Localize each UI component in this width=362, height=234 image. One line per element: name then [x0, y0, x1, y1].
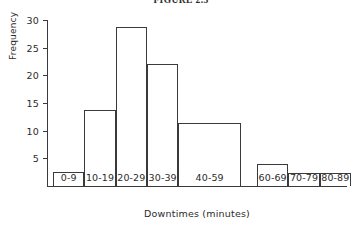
bar-30-39 [147, 64, 178, 186]
x-tick-label-10-19: 10-19 [86, 172, 114, 183]
figure-caption: FIGURE 2.3 [0, 0, 362, 5]
x-tick-label-20-29: 20-29 [117, 172, 145, 183]
x-tick-label-80-89: 80-89 [321, 172, 349, 183]
x-tick-label-70-79: 70-79 [290, 172, 318, 183]
plot-area: 51015202530 [47, 20, 347, 186]
y-tick-label-15: 15 [27, 98, 40, 109]
y-tick-label-5: 5 [33, 153, 39, 164]
y-tick-25: 25 [43, 48, 48, 49]
y-tick-label-20: 20 [27, 70, 40, 81]
figure-container: FIGURE 2.3 Frequency 51015202530 0-910-1… [0, 0, 362, 234]
figure-caption-clip: FIGURE 2.3 [0, 0, 362, 9]
y-tick-label-30: 30 [27, 15, 40, 26]
x-tick-label-60-69: 60-69 [259, 172, 287, 183]
bar-20-29 [116, 27, 147, 186]
x-tick-label-30-39: 30-39 [149, 172, 177, 183]
x-tick-label-40-59: 40-59 [196, 172, 224, 183]
y-tick-5: 5 [43, 158, 48, 159]
x-axis-title: Downtimes (minutes) [47, 208, 347, 219]
x-axis-spine [47, 186, 347, 187]
y-tick-10: 10 [43, 131, 48, 132]
y-tick-label-10: 10 [27, 125, 40, 136]
y-tick-30: 30 [43, 20, 48, 21]
y-tick-15: 15 [43, 103, 48, 104]
y-axis-title: Frequency [8, 12, 18, 60]
y-tick-label-25: 25 [27, 42, 40, 53]
x-tick-label-0-9: 0-9 [61, 172, 77, 183]
y-tick-20: 20 [43, 75, 48, 76]
